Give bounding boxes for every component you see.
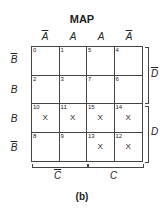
c-label: C <box>110 170 117 181</box>
cell-13: 13X <box>87 133 115 162</box>
d-label: D <box>151 126 158 137</box>
col-label-2: A <box>87 31 115 42</box>
cell-10: 10X <box>32 104 60 133</box>
figure-caption: (b) <box>0 191 164 202</box>
map-title: MAP <box>0 13 164 25</box>
brace-c <box>88 164 144 168</box>
cell-9: 9 <box>60 133 88 162</box>
col-label-1: A <box>59 31 87 42</box>
col-label-3: A <box>115 31 143 42</box>
cell-2: 2 <box>32 76 60 105</box>
karnaugh-grid: 0 1 5 4 2 3 7 6 10X 11X 15X 14X 8 9 13X … <box>31 46 143 162</box>
cell-15: 15X <box>87 104 115 133</box>
cell-3: 3 <box>60 76 88 105</box>
brace-c-bar <box>32 164 88 168</box>
cell-4: 4 <box>115 47 143 76</box>
brace-d-bar <box>145 47 149 104</box>
cell-0: 0 <box>32 47 60 76</box>
cell-6: 6 <box>115 76 143 105</box>
cell-7: 7 <box>87 76 115 105</box>
cell-12: 12X <box>115 133 143 162</box>
row-label-0: B <box>8 54 20 65</box>
c-bar-label: C <box>54 170 61 181</box>
row-label-2: B <box>8 113 20 124</box>
cell-5: 5 <box>87 47 115 76</box>
cell-14: 14X <box>115 104 143 133</box>
row-label-1: B <box>8 84 20 95</box>
brace-d <box>145 106 149 163</box>
cell-1: 1 <box>60 47 88 76</box>
col-label-0: A <box>31 31 59 42</box>
d-bar-label: D <box>151 68 158 79</box>
row-label-3: B <box>8 142 20 153</box>
cell-8: 8 <box>32 133 60 162</box>
cell-11: 11X <box>60 104 88 133</box>
